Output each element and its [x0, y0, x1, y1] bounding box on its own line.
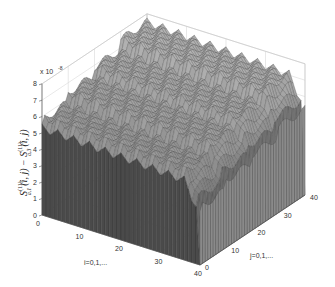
z-exponent: -8 [58, 65, 63, 71]
y-tick-label: 40 [310, 194, 318, 201]
x-tick-label: 40 [194, 270, 202, 277]
x-tick-label: 30 [155, 258, 163, 265]
y-tick-label: 30 [284, 212, 292, 219]
z-tick-label: 7 [33, 97, 37, 104]
z-tick-label: 2 [33, 179, 37, 186]
z-tick-label: 6 [33, 113, 37, 120]
z-tick-label: 1 [33, 195, 37, 202]
y-tick-label: 20 [258, 229, 266, 236]
z-tick-label: 8 [33, 80, 37, 87]
surface-plot: 012345678010203040010203040 x 10 -8 i=0,… [0, 0, 335, 287]
z-tick-label: 0 [33, 212, 37, 219]
y-axis-label: j=0,1,... [249, 252, 273, 260]
y-tick-label: 0 [205, 264, 209, 271]
z-tick-label: 3 [33, 162, 37, 169]
z-axis-label: S(11)a,1(i, j)−S(11)a,3(i, j) [17, 129, 32, 196]
y-tick-label: 10 [231, 247, 239, 254]
x-tick-label: 10 [76, 233, 84, 240]
svg-text:S(11)a,1(i, j)−S(11)a,3(i, j): S(11)a,1(i, j)−S(11)a,3(i, j) [17, 129, 32, 196]
x-axis-label: i=0,1,... [84, 259, 107, 266]
z-multiplier: x 10 [40, 68, 53, 75]
z-tick-label: 4 [33, 146, 37, 153]
z-tick-label: 5 [33, 130, 37, 137]
x-tick-label: 20 [115, 245, 123, 252]
x-tick-label: 0 [36, 220, 40, 227]
